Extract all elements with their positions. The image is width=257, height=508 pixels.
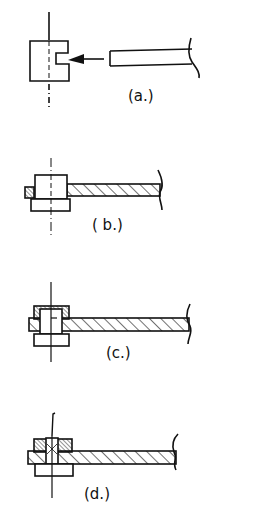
rod <box>110 49 192 66</box>
wire <box>52 413 55 436</box>
assembly-diagram: (a.) ( b.) (c.) (d.) <box>0 0 257 508</box>
panel-label-d: (d.) <box>84 485 110 503</box>
lower-block <box>35 464 73 476</box>
panel-label-b: ( b.) <box>92 216 123 234</box>
panel-a <box>30 12 199 110</box>
panel-label-a: (a.) <box>128 87 154 105</box>
arrow-head-icon <box>68 54 84 64</box>
break-line <box>189 38 199 78</box>
small-clip <box>25 187 34 198</box>
hatched-bar <box>67 184 160 196</box>
panel-label-c: (c.) <box>106 344 131 362</box>
